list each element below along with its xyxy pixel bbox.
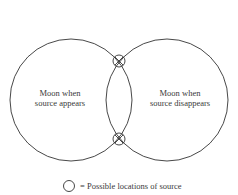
occultation-diagram: Moon when source appears Moon when sourc… — [0, 0, 238, 195]
bottom-intersection-marker-icon — [113, 133, 125, 145]
right-label-line1: Moon when — [160, 88, 202, 98]
top-intersection-marker-icon — [113, 55, 125, 67]
legend-circle-icon — [64, 181, 75, 192]
left-label-line2: source appears — [35, 98, 85, 108]
legend-text: = Possible locations of source — [80, 181, 182, 191]
right-label-line2: source disappears — [150, 98, 210, 108]
left-label-line1: Moon when — [40, 88, 82, 98]
